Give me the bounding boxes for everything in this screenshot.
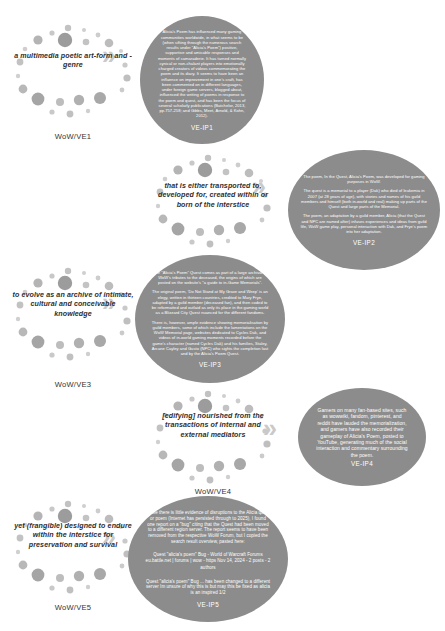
blob-paragraph: There is, however, ample evidence showin…: [152, 320, 269, 357]
blob-code-ve-ip2: VE-IP2: [353, 239, 375, 246]
blob-code-ve-ip5: VE-IP5: [197, 601, 219, 608]
cluster-label-ve1: a multimedia poetic art-form and -genre: [12, 52, 134, 71]
blob-ve-ip4: Gamers on many fan-based sites, such as …: [298, 388, 426, 486]
cluster-dots-icon: [8, 20, 138, 125]
cluster-code-ve4: WoW/VE4: [148, 487, 278, 496]
blob-paragraph: Quest "alicia's poem" Bug ... has been c…: [146, 579, 271, 596]
blob-ve-ip1: Alicia's Poem has influenced many gaming…: [140, 16, 264, 144]
blob-ve-ip2: The poem, In the Quest, Alicia's Poem, w…: [288, 150, 440, 270]
cluster-label-ve5: yet (frangible) designed to endure withi…: [12, 522, 134, 550]
blob-paragraph: Alicia's Poem has influenced many gaming…: [157, 29, 246, 118]
blob-paragraph: Gamers on many fan-based sites, such as …: [316, 407, 408, 458]
cluster-label-ve2: that is either transported to, developed…: [152, 182, 274, 210]
cluster-ve3: to evolve as an archive of intimate, cul…: [8, 263, 138, 368]
blob-code-ve-ip3: VE-IP3: [199, 361, 221, 368]
cluster-label-ve4: [edifying] nourished from the transactio…: [152, 412, 274, 440]
blob-paragraph: The poem, In the Quest, Alicia's Poem, w…: [300, 174, 428, 185]
cluster-code-ve1: WoW/VE1: [8, 132, 138, 141]
cluster-label-ve3: to evolve as an archive of intimate, cul…: [12, 291, 134, 319]
blob-paragraph: The "Alicia's Poem" Quest comes as part …: [152, 270, 269, 286]
blob-ve-ip5: While there is little evidence of disrup…: [128, 496, 288, 622]
blob-ve-ip3: The "Alicia's Poem" Quest comes as part …: [135, 255, 285, 383]
cluster-code-ve5: WoW/VE5: [8, 603, 138, 612]
stage-row-5: yet (frangible) designed to endure withi…: [0, 496, 445, 631]
cluster-ve1: a multimedia poetic art-form and -genre: [8, 20, 138, 125]
blob-paragraph: Quest "alicia's poem" Bug - World of War…: [146, 552, 271, 572]
blob-paragraph: While there is little evidence of disrup…: [146, 510, 271, 545]
stage-row-4: [edifying] nourished from the transactio…: [0, 386, 445, 496]
stage-row-1: a multimedia poetic art-form and -genre …: [0, 14, 445, 144]
blob-paragraph: The quest is a memorial to a player (Dak…: [300, 188, 428, 209]
cluster-ve5: yet (frangible) designed to endure withi…: [8, 496, 138, 601]
blob-paragraph: The original poem, 'Do Not Stand at My G…: [152, 289, 269, 315]
cluster-ve2: that is either transported to, developed…: [148, 150, 278, 255]
blob-code-ve-ip1: VE-IP1: [191, 124, 213, 131]
blob-code-ve-ip4: VE-IP4: [351, 460, 373, 467]
cluster-ve4: [edifying] nourished from the transactio…: [148, 386, 278, 491]
stage-row-3: to evolve as an archive of intimate, cul…: [0, 255, 445, 385]
blob-paragraph: The poem, an adaptation by a guild membe…: [300, 213, 428, 234]
